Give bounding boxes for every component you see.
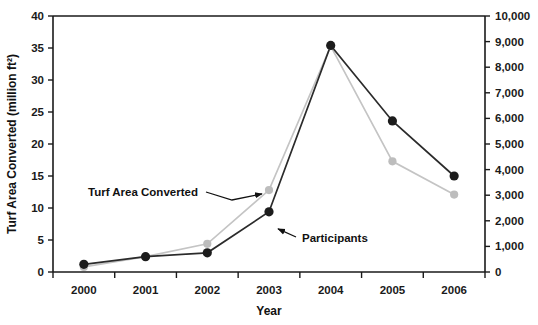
y-axis-right-tick-label: 7,000 (495, 87, 524, 99)
y-axis-left-tick-label: 10 (31, 202, 44, 214)
y-axis-right-tick-label: 6,000 (495, 112, 524, 124)
y-axis-left-tick-label: 20 (31, 138, 44, 150)
data-point-turf-area-converted[interactable] (203, 240, 211, 248)
x-axis-title: Year (256, 304, 282, 318)
data-point-participants[interactable] (79, 260, 88, 269)
y-axis-right-tick-label: 8,000 (495, 61, 524, 73)
x-axis-tick-label: 2003 (256, 284, 282, 296)
x-axis-tick-label: 2002 (194, 284, 220, 296)
x-axis-tick-label: 2006 (441, 284, 467, 296)
series-line-turf-area-converted (84, 46, 454, 267)
data-point-turf-area-converted[interactable] (450, 190, 458, 198)
data-point-participants[interactable] (450, 171, 459, 180)
y-axis-right-tick-label: 1,000 (495, 240, 524, 252)
y-axis-right-tick-label: 0 (495, 266, 501, 278)
y-axis-left-tick-label: 25 (31, 106, 44, 118)
y-axis-left-tick-label: 15 (31, 170, 44, 182)
data-point-turf-area-converted[interactable] (265, 186, 273, 194)
data-point-turf-area-converted[interactable] (388, 157, 396, 165)
y-axis-right-tick-label: 2,000 (495, 215, 524, 227)
y-axis-right-tick-label: 5,000 (495, 138, 524, 150)
chart-container: 051015202530354001,0002,0003,0004,0005,0… (0, 0, 538, 325)
y-axis-left-tick-label: 30 (31, 74, 44, 86)
data-point-participants[interactable] (264, 207, 273, 216)
y-axis-right-tick-label: 10,000 (495, 10, 530, 22)
line-chart: 051015202530354001,0002,0003,0004,0005,0… (0, 0, 538, 325)
series-line-participants (84, 45, 454, 264)
annotation-label-participants: Participants (302, 232, 368, 244)
x-axis-tick-label: 2004 (318, 284, 344, 296)
y-axis-right-tick-label: 9,000 (495, 36, 524, 48)
x-axis-tick-label: 2000 (71, 284, 97, 296)
data-point-participants[interactable] (141, 252, 150, 261)
y-axis-left-tick-label: 0 (38, 266, 44, 278)
annotation-leader-participants (278, 229, 296, 237)
data-point-participants[interactable] (326, 41, 335, 50)
data-point-participants[interactable] (203, 248, 212, 257)
annotation-label-turf-area-converted: Turf Area Converted (88, 186, 198, 198)
y-axis-left-tick-label: 40 (31, 10, 44, 22)
data-point-participants[interactable] (388, 116, 397, 125)
x-axis-tick-label: 2005 (380, 284, 406, 296)
y-axis-left-tick-label: 35 (31, 42, 44, 54)
y-axis-left-tick-label: 5 (38, 234, 45, 246)
x-axis-tick-label: 2001 (133, 284, 159, 296)
annotation-leader-turf-area-converted (206, 192, 262, 200)
y-axis-right-tick-label: 4,000 (495, 164, 524, 176)
y-axis-right-tick-label: 3,000 (495, 189, 524, 201)
y-axis-title: Turf Area Converted (million ft²) (5, 54, 19, 234)
